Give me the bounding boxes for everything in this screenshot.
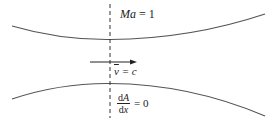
fraction-numerator: dA (117, 92, 130, 104)
nozzle-diagram: Ma = 1 v = c dA dx = 0 (0, 0, 277, 123)
flow-arrow-icon (90, 60, 137, 65)
mach-symbol: Ma (120, 7, 136, 21)
area-derivative-fraction: dA dx (117, 92, 130, 115)
area-derivative-value: = 0 (134, 98, 148, 109)
denominator-var: x (124, 104, 128, 115)
mach-value: = 1 (136, 7, 155, 21)
fraction-denominator: dx (118, 104, 129, 115)
numerator-var: A (123, 92, 129, 103)
mach-number-label: Ma = 1 (120, 8, 155, 20)
velocity-label: v = c (114, 66, 137, 77)
velocity-value: = c (119, 65, 137, 77)
area-derivative-label: dA dx = 0 (117, 92, 149, 115)
